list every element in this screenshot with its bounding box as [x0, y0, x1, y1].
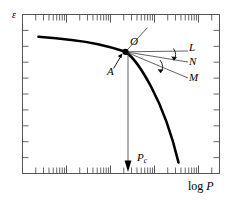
ray-N-label: N [189, 56, 196, 67]
plot-canvas [0, 0, 247, 201]
ray-M-label: M [189, 72, 198, 83]
x-axis-label-prefix: log [188, 179, 206, 193]
ray-L-label: L [189, 42, 195, 53]
critical-pressure-dropline [125, 53, 132, 173]
point-A-label: A [107, 66, 114, 77]
epsilon-curve [39, 37, 179, 163]
critical-pressure-label: Pc [137, 152, 147, 165]
angle-arc-arrowheads [158, 57, 177, 73]
critical-pressure-subscript: c [144, 156, 147, 165]
point-O-label: O [130, 36, 138, 47]
figure-container: ε O A L N M Pc log P [0, 0, 247, 201]
x-axis-label: log P [188, 180, 214, 192]
y-axis-label: ε [12, 10, 16, 20]
critical-pressure-symbol: P [137, 151, 144, 163]
ray-to-L-line [126, 51, 189, 52]
label-A-arrow [114, 54, 123, 69]
ray-to-M-line [126, 52, 189, 78]
x-axis-label-symbol: P [206, 179, 213, 193]
